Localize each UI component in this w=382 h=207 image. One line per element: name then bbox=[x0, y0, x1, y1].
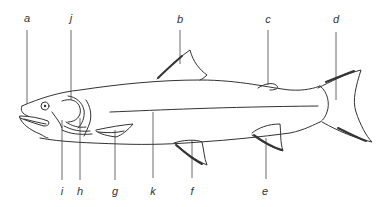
caudal-fin bbox=[318, 70, 372, 142]
dorsal-fin-outline bbox=[157, 50, 207, 80]
anal-fin-ray bbox=[254, 135, 282, 150]
anal-fin bbox=[252, 124, 283, 151]
pectoral-fin bbox=[96, 124, 133, 137]
fish-drawing bbox=[0, 0, 382, 207]
dorsal-fin bbox=[157, 50, 207, 80]
pupil bbox=[44, 105, 46, 107]
label-a: a bbox=[24, 13, 30, 24]
snout bbox=[21, 106, 28, 116]
caudal-peduncle bbox=[320, 86, 328, 122]
fish-body bbox=[22, 80, 328, 144]
label-g: g bbox=[112, 186, 118, 197]
label-e: e bbox=[262, 186, 268, 197]
caudal-fin-ray-top bbox=[326, 71, 354, 82]
pectoral-fin-outline bbox=[96, 124, 133, 137]
label-i: i bbox=[61, 186, 63, 197]
label-f: f bbox=[190, 186, 193, 197]
caudal-fin-ray-bottom bbox=[338, 128, 366, 141]
pelvic-fin-ray bbox=[176, 145, 202, 164]
operculum bbox=[62, 100, 80, 122]
label-k: k bbox=[150, 186, 156, 197]
label-c: c bbox=[265, 14, 271, 25]
lateral-line bbox=[110, 106, 318, 112]
pectoral-fin-ray bbox=[98, 131, 124, 133]
dorsal-outline bbox=[22, 80, 320, 106]
pelvic-fin bbox=[174, 140, 207, 165]
fish-anatomy-diagram: a j b c d i h g k f e bbox=[0, 0, 382, 207]
pelvic-fin-outline bbox=[174, 140, 207, 165]
dorsal-fin-ray bbox=[158, 56, 182, 78]
label-j: j bbox=[70, 13, 72, 24]
gill-line-1 bbox=[66, 122, 86, 127]
label-h: h bbox=[77, 186, 83, 197]
preopercle bbox=[68, 96, 84, 128]
cheek-line bbox=[52, 112, 62, 128]
label-b: b bbox=[177, 14, 183, 25]
label-d: d bbox=[333, 14, 339, 25]
leader-lines bbox=[27, 30, 336, 180]
